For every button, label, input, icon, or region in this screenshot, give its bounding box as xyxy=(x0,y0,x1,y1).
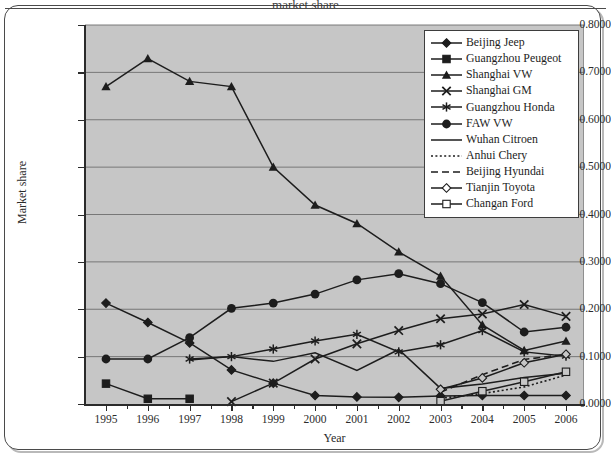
legend-item[interactable]: Wuhan Citroen xyxy=(430,132,573,148)
y-tick-label: 0.1000 xyxy=(539,351,611,363)
legend-item[interactable]: FAW VW xyxy=(430,115,573,131)
data-point xyxy=(311,355,319,363)
legend-item[interactable]: Shanghai GM xyxy=(430,83,573,99)
legend-item[interactable]: Shanghai VW xyxy=(430,67,573,83)
chart-page: market share 0.00000.10000.20000.30000.4… xyxy=(0,0,611,460)
legend-diamond-filled-icon xyxy=(430,36,463,50)
x-tick-label: 2005 xyxy=(501,414,547,426)
x-tick-label: 2003 xyxy=(418,414,464,426)
legend-item-label: Wuhan Citroen xyxy=(463,134,538,146)
y-tick-mark xyxy=(78,309,85,310)
x-minor-tick xyxy=(503,405,504,409)
legend-item-label: Shanghai VW xyxy=(463,69,532,81)
data-point xyxy=(311,391,320,400)
x-tick-mark xyxy=(566,405,567,411)
legend-circle-filled-icon xyxy=(430,117,463,131)
legend-item-label: Changan Ford xyxy=(463,198,533,210)
x-tick-mark xyxy=(315,405,316,411)
legend-item-label: Beijing Jeep xyxy=(463,37,525,49)
legend-item[interactable]: Anhui Chery xyxy=(430,148,573,164)
data-point xyxy=(395,326,403,334)
legend-item[interactable]: Tianjin Toyota xyxy=(430,180,573,196)
series-guangzhou-peugeot xyxy=(102,380,193,403)
data-point xyxy=(102,355,111,364)
legend-item-label: Guangzhou Honda xyxy=(463,102,555,114)
series-faw-vw xyxy=(102,269,571,363)
data-point xyxy=(394,247,403,255)
legend-item[interactable]: Beijing Hyundai xyxy=(430,164,573,180)
data-point xyxy=(186,395,193,402)
y-tick-label: 0.3000 xyxy=(539,256,611,268)
legend-item-label: FAW VW xyxy=(463,118,513,130)
data-point xyxy=(227,366,236,375)
data-point xyxy=(394,269,403,278)
data-point xyxy=(561,336,570,344)
legend-item[interactable]: Guangzhou Peugeot xyxy=(430,51,573,67)
x-tick-label: 2006 xyxy=(543,414,589,426)
y-tick-mark xyxy=(78,72,85,73)
x-minor-tick xyxy=(169,405,170,409)
legend-item-label: Anhui Chery xyxy=(463,150,527,162)
data-point xyxy=(520,378,527,385)
data-point xyxy=(185,77,194,85)
y-tick-mark xyxy=(78,120,85,121)
data-point xyxy=(269,163,278,171)
title-divider xyxy=(5,8,606,9)
data-point xyxy=(227,304,236,313)
y-tick-label: 0.8000 xyxy=(539,19,611,31)
x-tick-mark xyxy=(273,405,274,411)
data-point xyxy=(353,275,362,284)
x-minor-tick xyxy=(294,405,295,409)
x-tick-label: 1999 xyxy=(250,414,296,426)
x-minor-tick xyxy=(461,405,462,409)
x-tick-mark xyxy=(106,405,107,411)
data-point xyxy=(479,388,486,395)
x-minor-tick xyxy=(420,405,421,409)
x-tick-label: 1995 xyxy=(83,414,129,426)
legend-line-swatch xyxy=(430,133,463,147)
x-tick-label: 1998 xyxy=(208,414,254,426)
legend-item-label: Tianjin Toyota xyxy=(463,182,535,194)
data-point xyxy=(478,298,487,307)
x-tick-label: 1997 xyxy=(167,414,213,426)
data-point xyxy=(478,374,487,383)
x-tick-mark xyxy=(482,405,483,411)
data-point xyxy=(144,318,153,327)
x-tick-mark xyxy=(148,405,149,411)
y-tick-mark xyxy=(78,25,85,26)
legend-item[interactable]: Changan Ford xyxy=(430,196,573,212)
x-tick-mark xyxy=(399,405,400,411)
data-point xyxy=(436,271,445,279)
data-point xyxy=(144,395,151,402)
x-axis-line xyxy=(84,404,585,406)
data-point xyxy=(311,290,320,299)
x-axis-label: Year xyxy=(85,431,584,446)
legend-square-filled-icon xyxy=(430,52,463,66)
data-point xyxy=(101,82,110,90)
y-tick-mark xyxy=(78,215,85,216)
data-point xyxy=(102,299,111,308)
x-tick-mark xyxy=(357,405,358,411)
x-tick-mark xyxy=(441,405,442,411)
data-point xyxy=(353,393,362,402)
legend-line-swatch xyxy=(430,149,463,163)
data-point xyxy=(143,54,152,62)
legend-item[interactable]: Beijing Jeep xyxy=(430,35,573,51)
x-minor-tick xyxy=(211,405,212,409)
data-point xyxy=(520,328,529,337)
x-tick-label: 1996 xyxy=(125,414,171,426)
data-point xyxy=(352,219,361,227)
legend-item[interactable]: Guangzhou Honda xyxy=(430,99,573,115)
y-tick-mark xyxy=(78,404,85,405)
x-tick-mark xyxy=(524,405,525,411)
x-minor-tick xyxy=(252,405,253,409)
x-tick-label: 2000 xyxy=(292,414,338,426)
legend-item-label: Guangzhou Peugeot xyxy=(463,53,561,65)
x-minor-tick xyxy=(545,405,546,409)
data-point xyxy=(562,368,569,375)
x-tick-label: 2002 xyxy=(376,414,422,426)
data-point xyxy=(143,355,152,364)
x-tick-label: 2004 xyxy=(459,414,505,426)
y-tick-label: 0.0000 xyxy=(539,398,611,410)
data-point xyxy=(562,323,571,332)
